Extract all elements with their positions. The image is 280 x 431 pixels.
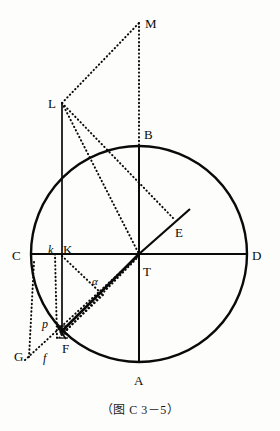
dotted-C-G xyxy=(29,262,34,357)
point-label-p-lower: p xyxy=(42,318,48,330)
dotted-T-p-low xyxy=(58,256,139,339)
point-label-E: E xyxy=(175,226,183,239)
point-label-k-lower: k xyxy=(48,244,53,256)
angle-label-alpha: α xyxy=(92,276,98,287)
point-label-B: B xyxy=(144,128,153,141)
dotted-k-vertical xyxy=(55,254,57,338)
point-label-C: C xyxy=(12,249,21,262)
figure-caption: （图 C 3－5） xyxy=(0,400,280,418)
diagram-canvas xyxy=(0,0,280,431)
point-label-G: G xyxy=(14,350,23,363)
point-label-L: L xyxy=(48,97,56,110)
dotted-L-E xyxy=(62,103,173,218)
point-label-K: K xyxy=(63,243,72,256)
geometry-figure: M L B C D T E K k A F f G p α （图 C 3－5） xyxy=(0,0,280,431)
point-label-f-lower: f xyxy=(43,352,46,364)
point-label-A: A xyxy=(134,374,143,387)
point-label-F: F xyxy=(62,342,69,355)
point-label-D: D xyxy=(252,249,261,262)
point-label-T: T xyxy=(143,265,151,278)
chord-T-F xyxy=(60,254,139,333)
dotted-alpha-F xyxy=(62,295,103,334)
dotted-L-M xyxy=(62,23,139,103)
point-label-M: M xyxy=(145,17,157,30)
dotted-L-T xyxy=(62,103,139,254)
